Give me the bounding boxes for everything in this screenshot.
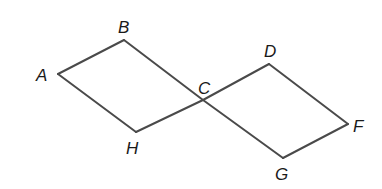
- shape-left-parallelogram: [58, 40, 203, 132]
- label-G: G: [275, 165, 288, 184]
- segment-FG: [283, 124, 348, 158]
- label-B: B: [118, 18, 129, 37]
- segment-CH: [136, 100, 203, 132]
- segment-BC: [124, 40, 203, 100]
- segment-GC: [203, 100, 283, 158]
- segment-AB: [58, 40, 124, 74]
- label-D: D: [264, 42, 276, 61]
- shape-right-parallelogram: [203, 64, 348, 158]
- label-F: F: [353, 117, 365, 136]
- segment-CD: [203, 64, 269, 100]
- label-A: A: [35, 66, 47, 85]
- label-C: C: [198, 79, 211, 98]
- geometry-diagram: A B C D F G H: [0, 0, 382, 189]
- segment-DF: [269, 64, 348, 124]
- label-H: H: [126, 139, 139, 158]
- segment-HA: [58, 74, 136, 132]
